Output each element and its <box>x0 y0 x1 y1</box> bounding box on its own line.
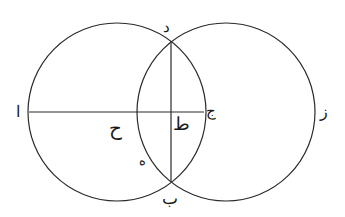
label-hha: ح <box>109 118 122 138</box>
label-jim: ج <box>206 104 216 119</box>
label-alif: ا <box>16 104 20 120</box>
label-ha: ه <box>139 154 146 167</box>
geometry-diagram: د ا ح ط ج ز ه ب <box>0 0 345 217</box>
label-tta: ط <box>173 115 190 133</box>
label-zay: ز <box>320 104 328 120</box>
diagram-canvas <box>0 0 345 217</box>
label-dal: د <box>163 20 170 35</box>
label-ba: ب <box>162 190 178 207</box>
